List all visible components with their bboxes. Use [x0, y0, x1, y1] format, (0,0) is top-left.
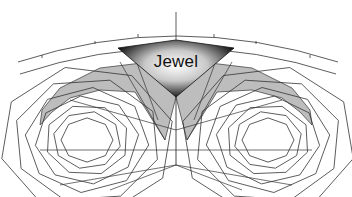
diagram-canvas — [0, 0, 352, 197]
jewel-shape — [118, 40, 234, 165]
jewel-diagram: Jewel — [0, 0, 352, 197]
